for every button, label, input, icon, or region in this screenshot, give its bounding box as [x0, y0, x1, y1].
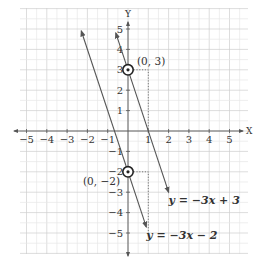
coordinate-graph: XY −5−4−3−2−112345−5−4−3−2−112345 (0, 3)… [0, 0, 256, 260]
y-tick-label: −5 [108, 228, 123, 239]
x-tick-label: 2 [165, 134, 171, 145]
equation-label: y = −3x − 2 [145, 229, 218, 242]
x-tick-label: −4 [39, 134, 54, 145]
x-tick-label: 4 [206, 134, 212, 145]
y-tick-label: 5 [117, 24, 123, 35]
y-axis-label: Y [124, 9, 132, 19]
point-label: (0, −2) [83, 175, 120, 187]
y-tick-label: −3 [108, 187, 123, 198]
intercept-dot [126, 68, 129, 71]
point-label: (0, 3) [137, 55, 165, 67]
x-tick-label: −1 [100, 134, 115, 145]
y-tick-label: 2 [117, 85, 123, 96]
axes: XY [14, 9, 253, 256]
y-tick-label: −4 [108, 207, 123, 218]
equation-labels: y = −3x + 3y = −3x − 2 [145, 194, 240, 242]
x-axis-label: X [246, 126, 253, 136]
y-tick-label: 1 [117, 105, 123, 116]
intercept-dot [126, 170, 129, 173]
x-tick-label: −2 [80, 134, 95, 145]
x-tick-label: −3 [60, 134, 75, 145]
x-tick-label: 1 [145, 134, 151, 145]
x-tick-label: 3 [186, 134, 192, 145]
x-tick-label: −5 [19, 134, 34, 145]
x-tick-label: 5 [226, 134, 232, 145]
equation-label: y = −3x + 3 [168, 194, 241, 207]
